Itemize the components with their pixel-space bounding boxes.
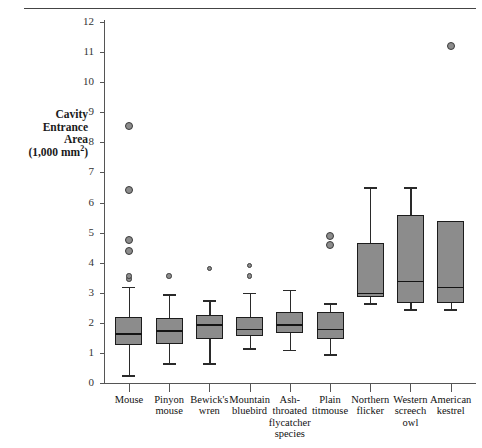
x-tick-mark	[250, 384, 251, 392]
whisker-upper	[169, 294, 170, 318]
box-plot-box	[115, 317, 142, 346]
whisker-cap-lower	[324, 354, 337, 355]
outlier-point	[207, 266, 213, 272]
y-tick-mark	[100, 22, 105, 23]
y-tick-label: 7	[68, 165, 94, 177]
whisker-upper	[370, 187, 371, 243]
x-tick-label-line: American	[425, 394, 477, 405]
box-plot-box	[397, 215, 424, 304]
y-tick-mark	[100, 52, 105, 53]
whisker-upper	[330, 303, 331, 312]
box-plot-box	[317, 312, 344, 339]
outlier-point	[447, 42, 455, 50]
whisker-cap-upper	[283, 290, 296, 291]
x-tick-mark	[209, 384, 210, 392]
y-tick-label: 12	[68, 15, 94, 27]
y-tick-mark	[100, 353, 105, 354]
y-axis-label-line-4: (1,000 mm2)	[4, 146, 88, 159]
y-tick-mark	[100, 172, 105, 173]
y-tick-mark	[100, 323, 105, 324]
top-rule	[24, 8, 476, 9]
median-line	[397, 281, 424, 283]
whisker-lower	[330, 339, 331, 354]
whisker-cap-lower	[444, 309, 457, 310]
median-line	[437, 287, 464, 289]
whisker-lower	[290, 333, 291, 350]
y-tick-label: 10	[68, 75, 94, 87]
whisker-cap-upper	[122, 287, 135, 288]
outlier-point	[126, 273, 132, 279]
y-tick-label: 2	[68, 316, 94, 328]
x-tick-mark	[290, 384, 291, 392]
x-axis-title: species	[264, 428, 316, 439]
y-tick-label: 11	[68, 45, 94, 57]
x-tick-mark	[370, 384, 371, 392]
y-tick-label: 3	[68, 286, 94, 298]
outlier-point	[326, 241, 334, 249]
outlier-point	[125, 236, 133, 244]
outlier-point	[125, 186, 133, 194]
whisker-cap-upper	[404, 187, 417, 188]
whisker-cap-upper	[243, 293, 256, 294]
y-tick-label: 8	[68, 135, 94, 147]
outlier-point	[247, 273, 253, 279]
x-tick-mark	[169, 384, 170, 392]
x-tick-label: Americankestrel	[425, 394, 477, 417]
whisker-cap-lower	[203, 363, 216, 364]
whisker-upper	[290, 290, 291, 313]
y-tick-label: 0	[68, 376, 94, 388]
whisker-cap-upper	[364, 187, 377, 188]
x-tick-mark	[410, 384, 411, 392]
whisker-upper	[250, 293, 251, 317]
median-line	[276, 324, 303, 326]
whisker-lower	[209, 339, 210, 363]
whisker-cap-lower	[364, 303, 377, 304]
whisker-upper	[410, 187, 411, 214]
whisker-lower	[250, 336, 251, 348]
box-plot-box	[236, 317, 263, 337]
whisker-lower	[169, 344, 170, 364]
y-tick-label: 1	[68, 346, 94, 358]
median-line	[317, 329, 344, 331]
whisker-cap-lower	[122, 375, 135, 376]
y-tick-mark	[100, 203, 105, 204]
y-tick-mark	[100, 263, 105, 264]
box-plot-box	[196, 315, 223, 339]
x-tick-label-line: kestrel	[425, 405, 477, 416]
y-axis-label-line-2: Entrance	[4, 121, 88, 134]
box-plot-box	[357, 243, 384, 297]
y-tick-label: 4	[68, 256, 94, 268]
whisker-cap-lower	[163, 363, 176, 364]
outlier-point	[125, 122, 133, 130]
y-tick-mark	[100, 383, 105, 384]
whisker-cap-lower	[283, 350, 296, 351]
median-line	[196, 324, 223, 326]
y-tick-label: 6	[68, 196, 94, 208]
y-tick-mark	[100, 142, 105, 143]
whisker-cap-lower	[404, 309, 417, 310]
median-line	[115, 333, 142, 335]
y-tick-label: 9	[68, 105, 94, 117]
x-tick-label-line: flycatcher	[264, 417, 316, 428]
y-tick-label: 5	[68, 226, 94, 238]
whisker-cap-upper	[203, 300, 216, 301]
y-axis-line	[104, 20, 105, 384]
y-axis-units: (1,000 mm	[28, 146, 80, 158]
whisker-cap-lower	[243, 348, 256, 349]
y-tick-mark	[100, 112, 105, 113]
boxplot-figure: Cavity Entrance Area (1,000 mm2) 1211109…	[0, 0, 482, 448]
outlier-point	[166, 273, 172, 279]
outlier-point	[326, 232, 334, 240]
x-tick-mark	[451, 384, 452, 392]
y-tick-mark	[100, 233, 105, 234]
median-line	[236, 329, 263, 331]
whisker-cap-upper	[324, 303, 337, 304]
x-tick-mark	[129, 384, 130, 392]
box-plot-box	[437, 221, 464, 304]
whisker-upper	[209, 300, 210, 315]
outlier-point	[247, 263, 253, 269]
median-line	[156, 330, 183, 332]
x-tick-mark	[330, 384, 331, 392]
y-axis-units-close: )	[84, 146, 88, 158]
y-tick-mark	[100, 293, 105, 294]
